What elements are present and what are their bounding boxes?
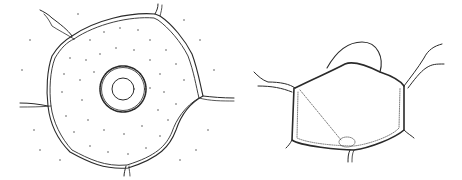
cell-cross-section	[254, 42, 444, 162]
cell-top-view	[20, 4, 234, 176]
cell-drawings	[0, 0, 462, 180]
illustration-canvas	[0, 0, 462, 180]
